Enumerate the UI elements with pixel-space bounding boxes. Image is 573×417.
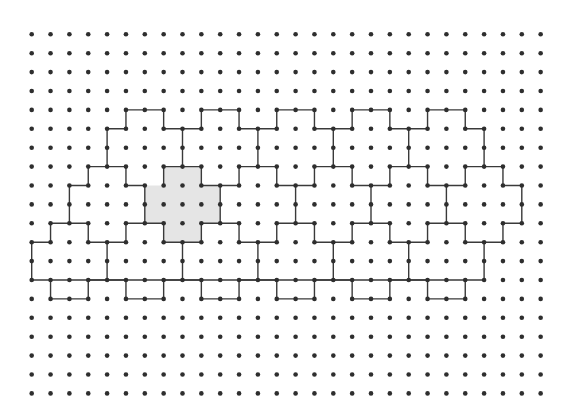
grid-dot [218,297,223,302]
grid-dot [48,145,53,150]
grid-dot [463,89,468,94]
grid-dot [388,32,393,37]
grid-dot [369,240,374,245]
grid-dot [482,202,487,207]
grid-dot [29,70,34,75]
grid-dot [256,51,261,56]
grid-dot [67,70,72,75]
grid-dot [218,70,223,75]
grid-dot [425,145,430,150]
grid-dot [501,372,506,377]
grid-dot [293,32,298,37]
grid-dot [501,259,506,264]
grid-dot [425,259,430,264]
grid-dot [369,70,374,75]
grid-dot [312,259,317,264]
grid-dot [406,32,411,37]
grid-dot [388,127,393,132]
grid-dot [350,316,355,321]
grid-dot [256,70,261,75]
grid-dot [312,372,317,377]
grid-dot [161,202,166,207]
grid-dot [86,353,91,358]
grid-dot [406,297,411,302]
grid-dot [293,127,298,132]
grid-dot [48,240,53,245]
grid-dot [369,297,374,302]
grid-dot [67,51,72,56]
grid-dot [86,51,91,56]
grid-dot [293,353,298,358]
grid-dot [312,202,317,207]
grid-dot [161,297,166,302]
grid-dot [312,240,317,245]
grid-dot [331,334,336,339]
grid-dot [425,51,430,56]
grid-dot [312,164,317,169]
grid-dot [369,145,374,150]
grid-dot [274,164,279,169]
grid-dot [482,127,487,132]
grid-dot [237,202,242,207]
grid-dot [520,145,525,150]
grid-dot [105,202,110,207]
grid-dot [274,183,279,188]
grid-dot [218,145,223,150]
grid-dot [274,221,279,226]
grid-dot [86,127,91,132]
grid-dot [501,202,506,207]
grid-dot [331,316,336,321]
grid-dot [369,391,374,396]
grid-dot [331,108,336,113]
grid-dot [86,164,91,169]
grid-dot [425,127,430,132]
grid-dot [256,183,261,188]
grid-dot [124,221,129,226]
grid-dot [274,391,279,396]
grid-dot [105,372,110,377]
grid-dot [256,164,261,169]
grid-dot [463,32,468,37]
grid-dot [482,221,487,226]
grid-dot [444,334,449,339]
grid-dot [29,202,34,207]
grid-dot [237,391,242,396]
grid-dot [538,391,543,396]
grid-dot [180,164,185,169]
grid-dot [312,51,317,56]
grid-dot [29,372,34,377]
grid-dot [67,334,72,339]
grid-dot [274,259,279,264]
grid-dot [312,127,317,132]
grid-dot [29,391,34,396]
grid-dot [274,353,279,358]
grid-dot [331,353,336,358]
grid-dot [180,127,185,132]
grid-dot [274,145,279,150]
grid-dot [520,221,525,226]
grid-dot [86,32,91,37]
grid-dot [331,278,336,283]
grid-dot [406,145,411,150]
grid-dot [86,240,91,245]
grid-dot [331,259,336,264]
grid-dot [143,353,148,358]
grid-dot [86,297,91,302]
grid-dot [369,372,374,377]
grid-dot [369,108,374,113]
grid-dot [331,183,336,188]
grid-dot [538,202,543,207]
grid-dot [520,164,525,169]
grid-dot [124,164,129,169]
grid-dot [520,32,525,37]
grid-dot [199,32,204,37]
grid-dot [199,353,204,358]
grid-dot [369,316,374,321]
grid-dot [161,127,166,132]
grid-dot [388,353,393,358]
grid-dot [538,183,543,188]
grid-dot [218,259,223,264]
grid-dot [105,316,110,321]
grid-dot [501,32,506,37]
grid-dot [312,334,317,339]
